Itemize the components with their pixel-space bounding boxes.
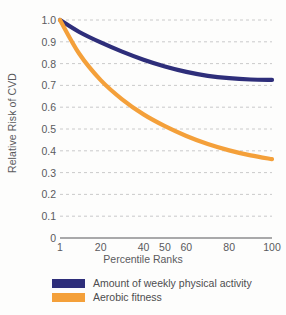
x-tick-label: 50 — [159, 242, 171, 253]
y-tick-label: 0.3 — [22, 168, 56, 178]
chart-figure: Relative Risk of CVD 1.00.90.80.70.60.50… — [0, 0, 286, 315]
y-tick-label: 0.4 — [22, 146, 56, 156]
y-tick-label: 1.0 — [22, 15, 56, 25]
legend-item: Amount of weekly physical activity — [52, 277, 284, 289]
legend-label-fitness: Aerobic fitness — [93, 292, 162, 303]
y-tick-label: 0.9 — [22, 37, 56, 47]
chart-legend: Amount of weekly physical activity Aerob… — [52, 277, 284, 305]
y-axis-tick-labels: 1.00.90.80.70.60.50.40.30.20.10 — [20, 0, 56, 250]
x-tick-label: 40 — [138, 242, 150, 253]
legend-label-activity: Amount of weekly physical activity — [93, 278, 252, 289]
x-tick-label: 20 — [95, 242, 107, 253]
x-tick-label: 60 — [180, 242, 192, 253]
legend-swatch-activity — [52, 279, 85, 288]
y-tick-label: 0.2 — [22, 189, 56, 199]
gridlines — [60, 20, 272, 216]
y-tick-label: 0.6 — [22, 102, 56, 112]
series-line-fitness — [60, 20, 272, 159]
y-axis-title-text: Relative Risk of CVD — [6, 72, 18, 172]
y-tick-label: 0.8 — [22, 59, 56, 69]
x-tick-label: 80 — [223, 242, 235, 253]
legend-item: Aerobic fitness — [52, 291, 284, 303]
y-axis-title: Relative Risk of CVD — [2, 0, 22, 245]
x-axis-title: Percentile Ranks — [0, 253, 286, 265]
y-tick-label: 0.7 — [22, 80, 56, 90]
legend-swatch-fitness — [52, 293, 85, 302]
y-tick-label: 0.1 — [22, 211, 56, 221]
x-tick-label: 1 — [57, 242, 63, 253]
y-tick-label: 0.5 — [22, 124, 56, 134]
y-tick-label: 0 — [22, 233, 56, 243]
x-tick-label: 100 — [263, 242, 281, 253]
